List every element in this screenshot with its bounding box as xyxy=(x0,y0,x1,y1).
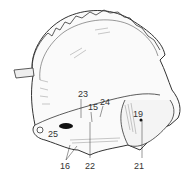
temporal-bone-drawing xyxy=(0,0,194,177)
label-21: 21 xyxy=(134,162,144,171)
label-24: 24 xyxy=(100,98,110,107)
label-19: 19 xyxy=(133,110,143,119)
acoustic-meatus xyxy=(59,123,73,129)
label-23: 23 xyxy=(78,90,88,99)
left-opening xyxy=(37,127,43,133)
label-22: 22 xyxy=(85,162,95,171)
label-15: 15 xyxy=(88,103,98,112)
process-stub xyxy=(14,68,34,78)
label-16: 16 xyxy=(60,162,70,171)
label-25: 25 xyxy=(48,130,58,139)
